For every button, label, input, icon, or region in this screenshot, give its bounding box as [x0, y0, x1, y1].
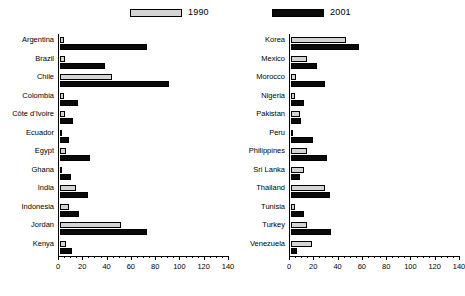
bar-1990 [291, 130, 293, 136]
category-label: Tunisia [231, 203, 285, 211]
bar-2001 [291, 100, 304, 106]
category-label: Nigeria [231, 92, 285, 100]
category-label: Brazil [0, 55, 54, 63]
axis-tick-major [313, 256, 314, 260]
legend-swatch-1990 [130, 9, 182, 17]
category-label: Morocco [231, 73, 285, 81]
axis-tick-major [107, 256, 108, 260]
axis-tick-minor [356, 256, 357, 258]
bar-2001 [291, 192, 330, 198]
axis-tick-major [179, 256, 180, 260]
bar-2001 [60, 118, 73, 124]
axis-tick-major [131, 256, 132, 260]
bar-2001 [60, 137, 69, 143]
bar-1990 [60, 130, 62, 136]
category-label: Chile [0, 73, 54, 81]
bar-1990 [60, 241, 66, 247]
bar-2001 [291, 155, 327, 161]
bar-1990 [60, 74, 112, 80]
axis-tick-label: 120 [428, 263, 441, 271]
axis-tick-minor [167, 256, 168, 258]
bar-2001 [60, 248, 72, 254]
bar-1990 [291, 56, 307, 62]
axis-tick-minor [307, 256, 308, 258]
axis-tick-major [228, 256, 229, 260]
axis-tick-minor [192, 256, 193, 258]
bar-1990 [60, 56, 65, 62]
bar-2001 [291, 63, 317, 69]
bar-2001 [60, 81, 169, 87]
bar-2001 [291, 229, 331, 235]
legend-swatch-2001 [272, 9, 324, 17]
axis-tick-major [338, 256, 339, 260]
axis-tick-minor [380, 256, 381, 258]
axis-tick-minor [70, 256, 71, 258]
axis-tick-major [58, 256, 59, 260]
bar-2001 [291, 137, 313, 143]
bar-1990 [60, 167, 62, 173]
axis-tick-minor [94, 256, 95, 258]
axis-tick-minor [113, 256, 114, 258]
chart-panel-left: ArgentinaBrazilChileColombiaCôte d'Ivoir… [0, 34, 231, 290]
axis-tick-minor [186, 256, 187, 258]
bar-1990 [60, 204, 69, 210]
axis-tick-major [204, 256, 205, 260]
bar-2001 [60, 155, 90, 161]
category-label: India [0, 184, 54, 192]
axis-tick-minor [447, 256, 448, 258]
axis-tick-minor [392, 256, 393, 258]
axis-tick-minor [332, 256, 333, 258]
axis-tick-minor [143, 256, 144, 258]
axis-tick-major [459, 256, 460, 260]
category-label: Jordan [0, 221, 54, 229]
axis-tick-label: 0 [56, 263, 60, 271]
axis-tick-label: 20 [78, 263, 86, 271]
bar-1990 [291, 204, 295, 210]
bar-1990 [291, 148, 307, 154]
axis-tick-minor [319, 256, 320, 258]
axis-tick-label: 40 [102, 263, 110, 271]
axis-tick-minor [125, 256, 126, 258]
category-label: Colombia [0, 92, 54, 100]
category-axis-right: KoreaMexicoMoroccoNigeriaPakistanPeruPhi… [231, 34, 289, 256]
category-label: Ghana [0, 166, 54, 174]
bar-2001 [291, 44, 359, 50]
axis-tick-label: 100 [404, 263, 417, 271]
axis-tick-minor [101, 256, 102, 258]
category-label: Ecuador [0, 129, 54, 137]
bar-2001 [60, 63, 105, 69]
chart-panel-right: KoreaMexicoMoroccoNigeriaPakistanPeruPhi… [231, 34, 462, 290]
bar-1990 [291, 185, 325, 191]
axis-tick-minor [423, 256, 424, 258]
axis-tick-minor [161, 256, 162, 258]
category-label: Indonesia [0, 203, 54, 211]
axis-tick-minor [119, 256, 120, 258]
axis-tick-major [82, 256, 83, 260]
category-label: Pakistan [231, 110, 285, 118]
category-label: Argentina [0, 36, 54, 44]
axis-tick-minor [137, 256, 138, 258]
axis-tick-minor [404, 256, 405, 258]
plot-area-left [58, 34, 229, 256]
bar-1990 [291, 93, 295, 99]
axis-tick-label: 100 [173, 263, 186, 271]
axis-tick-label: 80 [382, 263, 390, 271]
axis-tick-minor [368, 256, 369, 258]
category-label: Egypt [0, 147, 54, 155]
legend-entry-1990: 1990 [130, 8, 209, 17]
bar-2001 [60, 100, 78, 106]
category-label: Korea [231, 36, 285, 44]
category-label: Sri Lanka [231, 166, 285, 174]
axis-tick-major [386, 256, 387, 260]
axis-tick-label: 140 [453, 263, 465, 271]
category-label: Mexico [231, 55, 285, 63]
bar-2001 [291, 118, 301, 124]
chart-legend: 1990 2001 [0, 8, 462, 26]
category-label: Philippines [231, 147, 285, 155]
axis-tick-minor [453, 256, 454, 258]
axis-tick-label: 80 [151, 263, 159, 271]
category-label: Côte d'Ivoire [0, 110, 54, 118]
axis-tick-minor [344, 256, 345, 258]
bar-2001 [291, 211, 304, 217]
axis-tick-minor [350, 256, 351, 258]
